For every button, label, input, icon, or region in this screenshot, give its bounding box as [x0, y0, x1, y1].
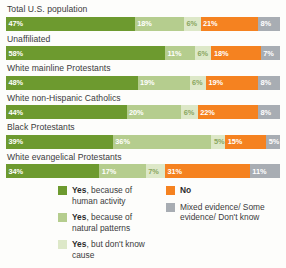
- segment-value-label: 22%: [198, 108, 215, 117]
- segment-value-label: 5%: [266, 137, 279, 146]
- chart-row-group: White evangelical Protestants34%17%7%31%…: [6, 152, 280, 179]
- bar-segment: 44%: [6, 105, 127, 119]
- legend-swatch-icon: [166, 186, 175, 195]
- category-label: White evangelical Protestants: [6, 152, 280, 163]
- category-label: Unaffiliated: [6, 34, 280, 45]
- category-label: Black Protestants: [6, 122, 280, 133]
- bar-segment: 11%: [165, 46, 195, 60]
- legend-label-strong: Yes: [72, 185, 86, 195]
- legend-swatch-icon: [58, 186, 67, 195]
- chart-legend: Yes, because of human activityYes, becau…: [6, 185, 280, 266]
- bar-segment: 11%: [250, 164, 280, 178]
- segment-value-label: 6%: [184, 19, 197, 28]
- stacked-bar: 44%20%6%22%8%: [6, 105, 280, 119]
- bar-segment: 19%: [206, 76, 258, 90]
- bar-segment: 5%: [211, 135, 225, 149]
- chart-row-group: White mainline Protestants48%19%6%19%8%: [6, 63, 280, 90]
- bar-segment: 31%: [165, 164, 250, 178]
- segment-value-label: 7%: [261, 49, 274, 58]
- segment-value-label: 6%: [190, 78, 203, 87]
- segment-value-label: 47%: [6, 19, 23, 28]
- bar-segment: 6%: [195, 46, 211, 60]
- legend-item[interactable]: Yes, because of human activity: [58, 185, 154, 206]
- category-label: White non-Hispanic Catholics: [6, 93, 280, 104]
- legend-column: Yes, because of human activityYes, becau…: [58, 185, 154, 266]
- stacked-bar-chart: Total U.S. population47%18%6%21%8%Unaffi…: [0, 0, 286, 268]
- segment-value-label: 31%: [165, 167, 182, 176]
- category-label: Total U.S. population: [6, 4, 280, 15]
- stacked-bar: 58%11%6%18%7%: [6, 46, 280, 60]
- stacked-bar: 47%18%6%21%8%: [6, 17, 280, 31]
- segment-value-label: 15%: [225, 137, 242, 146]
- legend-label: Mixed evidence/ Some evidence/ Don't kno…: [180, 202, 276, 223]
- stacked-bar: 39%36%5%15%5%: [6, 135, 280, 149]
- legend-label: Yes, but don't know cause: [72, 239, 154, 260]
- bar-segment: 20%: [127, 105, 182, 119]
- bar-segment: 17%: [99, 164, 146, 178]
- segment-value-label: 7%: [146, 167, 159, 176]
- bar-segment: 48%: [6, 76, 138, 90]
- legend-label: Yes, because of natural patterns: [72, 212, 154, 233]
- segment-value-label: 36%: [113, 137, 130, 146]
- stacked-bar: 48%19%6%19%8%: [6, 76, 280, 90]
- segment-value-label: 8%: [258, 19, 271, 28]
- chart-row-group: Unaffiliated58%11%6%18%7%: [6, 34, 280, 61]
- legend-item[interactable]: Yes, because of natural patterns: [58, 212, 154, 233]
- legend-item[interactable]: Yes, but don't know cause: [58, 239, 154, 260]
- chart-row-group: Total U.S. population47%18%6%21%8%: [6, 4, 280, 31]
- bar-segment: 6%: [190, 76, 206, 90]
- segment-value-label: 19%: [206, 78, 223, 87]
- chart-row-group: White non-Hispanic Catholics44%20%6%22%8…: [6, 93, 280, 120]
- legend-label-strong: No: [180, 185, 191, 195]
- bar-segment: 18%: [211, 46, 260, 60]
- bar-segment: 18%: [135, 17, 184, 31]
- stacked-bar: 34%17%7%31%11%: [6, 164, 280, 178]
- legend-swatch-icon: [58, 240, 67, 249]
- segment-value-label: 34%: [6, 167, 23, 176]
- legend-label: Yes, because of human activity: [72, 185, 154, 206]
- legend-swatch-icon: [166, 203, 175, 212]
- segment-value-label: 39%: [6, 137, 23, 146]
- segment-value-label: 11%: [165, 49, 182, 58]
- bar-segment: 34%: [6, 164, 99, 178]
- bar-segment: 6%: [181, 105, 197, 119]
- segment-value-label: 8%: [258, 78, 271, 87]
- legend-item[interactable]: Mixed evidence/ Some evidence/ Don't kno…: [166, 202, 276, 223]
- segment-value-label: 21%: [201, 19, 218, 28]
- segment-value-label: 18%: [135, 19, 152, 28]
- bar-segment: 15%: [225, 135, 266, 149]
- bar-segment: 21%: [201, 17, 259, 31]
- bar-segment: 47%: [6, 17, 135, 31]
- segment-value-label: 58%: [6, 49, 23, 58]
- legend-label-strong: Yes: [72, 239, 86, 249]
- bar-segment: 8%: [258, 76, 280, 90]
- bar-segment: 39%: [6, 135, 113, 149]
- segment-value-label: 48%: [6, 78, 23, 87]
- segment-value-label: 6%: [181, 108, 194, 117]
- segment-value-label: 18%: [211, 49, 228, 58]
- bar-segment: 6%: [184, 17, 200, 31]
- segment-value-label: 6%: [195, 49, 208, 58]
- category-label: White mainline Protestants: [6, 63, 280, 74]
- bar-segment: 7%: [146, 164, 165, 178]
- segment-value-label: 44%: [6, 108, 23, 117]
- chart-rows: Total U.S. population47%18%6%21%8%Unaffi…: [6, 4, 280, 178]
- segment-value-label: 8%: [258, 108, 271, 117]
- legend-label-rest: Mixed evidence/ Some evidence/ Don't kno…: [180, 202, 265, 223]
- segment-value-label: 11%: [250, 167, 267, 176]
- segment-value-label: 17%: [99, 167, 116, 176]
- legend-label-strong: Yes: [72, 212, 86, 222]
- bar-segment: 5%: [266, 135, 280, 149]
- legend-label: No: [180, 185, 191, 196]
- bar-segment: 58%: [6, 46, 165, 60]
- legend-column: NoMixed evidence/ Some evidence/ Don't k…: [166, 185, 276, 266]
- legend-item[interactable]: No: [166, 185, 276, 196]
- legend-swatch-icon: [58, 213, 67, 222]
- bar-segment: 36%: [113, 135, 212, 149]
- bar-segment: 8%: [258, 105, 280, 119]
- segment-value-label: 5%: [211, 137, 224, 146]
- bar-segment: 7%: [261, 46, 280, 60]
- bar-segment: 22%: [198, 105, 258, 119]
- bar-segment: 8%: [258, 17, 280, 31]
- bar-segment: 19%: [138, 76, 190, 90]
